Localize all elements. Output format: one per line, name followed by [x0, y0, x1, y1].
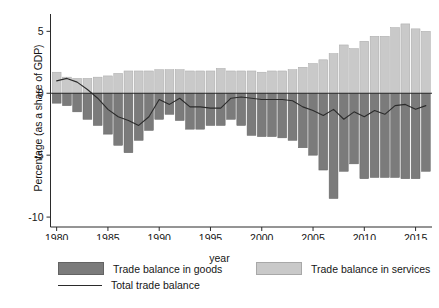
legend-item[interactable]: Trade balance in goods [58, 262, 222, 275]
bar-goods [370, 93, 379, 177]
x-tick-label: 1990 [148, 232, 172, 240]
bar-services [216, 68, 225, 93]
bar-services [350, 49, 359, 94]
bar-services [145, 71, 154, 93]
bar-goods [134, 93, 143, 140]
bar-services [227, 71, 236, 93]
chart-root: 50-5-1019801985199019952000200520102015 … [0, 0, 439, 308]
bars-services [52, 24, 430, 93]
bar-services [247, 71, 256, 93]
bar-services [155, 70, 164, 94]
bar-services [196, 71, 205, 93]
bar-services [268, 71, 277, 93]
bar-services [257, 72, 266, 93]
bar-goods [175, 93, 184, 120]
bar-goods [114, 93, 123, 145]
legend-label: Trade balance in services [311, 263, 430, 275]
bar-services [401, 24, 410, 93]
bar-goods [155, 93, 164, 119]
bar-goods [83, 93, 92, 119]
x-tick-label: 2015 [404, 232, 428, 240]
bar-goods [411, 93, 420, 178]
bar-services [124, 71, 133, 93]
bar-services [370, 36, 379, 93]
bar-goods [104, 93, 113, 134]
bar-goods [380, 93, 389, 177]
legend-item[interactable]: Trade balance in services [256, 262, 430, 275]
x-tick-label: 2005 [301, 232, 325, 240]
bar-services [391, 28, 400, 94]
x-tick-label: 2000 [250, 232, 274, 240]
bar-services [104, 76, 113, 93]
bar-goods [298, 93, 307, 147]
bar-services [165, 70, 174, 94]
x-tick-label: 1995 [199, 232, 223, 240]
bar-services [134, 71, 143, 93]
legend-line-swatch [58, 280, 102, 291]
bar-goods [237, 93, 246, 125]
plot-area: 50-5-1019801985199019952000200520102015 … [0, 0, 439, 240]
bar-goods [206, 93, 215, 125]
legend-item[interactable]: Total trade balance [58, 279, 200, 291]
bar-services [411, 29, 420, 93]
bar-services [83, 78, 92, 93]
legend-label: Trade balance in goods [113, 263, 222, 275]
x-tick-label: 2010 [353, 232, 377, 240]
bar-goods [309, 93, 318, 155]
bar-goods [339, 93, 348, 171]
bar-goods [63, 93, 72, 105]
bar-goods [186, 93, 195, 129]
legend-services-swatch [256, 262, 302, 275]
bar-services [278, 71, 287, 93]
bar-services [175, 70, 184, 94]
bar-services [319, 60, 328, 93]
chart-legend: Trade balance in goodsTrade balance in s… [0, 262, 439, 308]
bar-goods [216, 93, 225, 125]
bars-goods [52, 93, 430, 198]
bar-services [93, 77, 102, 93]
bar-services [339, 45, 348, 93]
bar-services [237, 71, 246, 93]
bar-services [309, 64, 318, 94]
bar-goods [196, 93, 205, 129]
bar-services [380, 36, 389, 93]
bar-services [288, 70, 297, 94]
bar-goods [227, 93, 236, 119]
bar-services [298, 67, 307, 93]
bar-services [360, 41, 369, 93]
bar-goods [73, 93, 82, 112]
bar-services [421, 31, 430, 93]
bar-goods [360, 93, 369, 178]
x-tick-label: 1985 [96, 232, 120, 240]
bar-goods [421, 93, 430, 171]
bar-goods [350, 93, 359, 164]
bar-goods [52, 93, 61, 103]
legend-label: Total trade balance [111, 279, 200, 291]
chart-canvas: 50-5-1019801985199019952000200520102015 [0, 0, 439, 240]
bar-services [52, 72, 61, 93]
bar-services [329, 54, 338, 94]
bar-goods [319, 93, 328, 170]
bar-goods [247, 93, 256, 135]
bar-goods [124, 93, 133, 152]
bar-services [206, 71, 215, 93]
bar-services [186, 71, 195, 93]
y-axis-label: Percentage (as a share of GDP) [32, 18, 44, 218]
bar-services [114, 73, 123, 93]
legend-goods-swatch [58, 262, 104, 275]
x-tick-label: 1980 [45, 232, 69, 240]
